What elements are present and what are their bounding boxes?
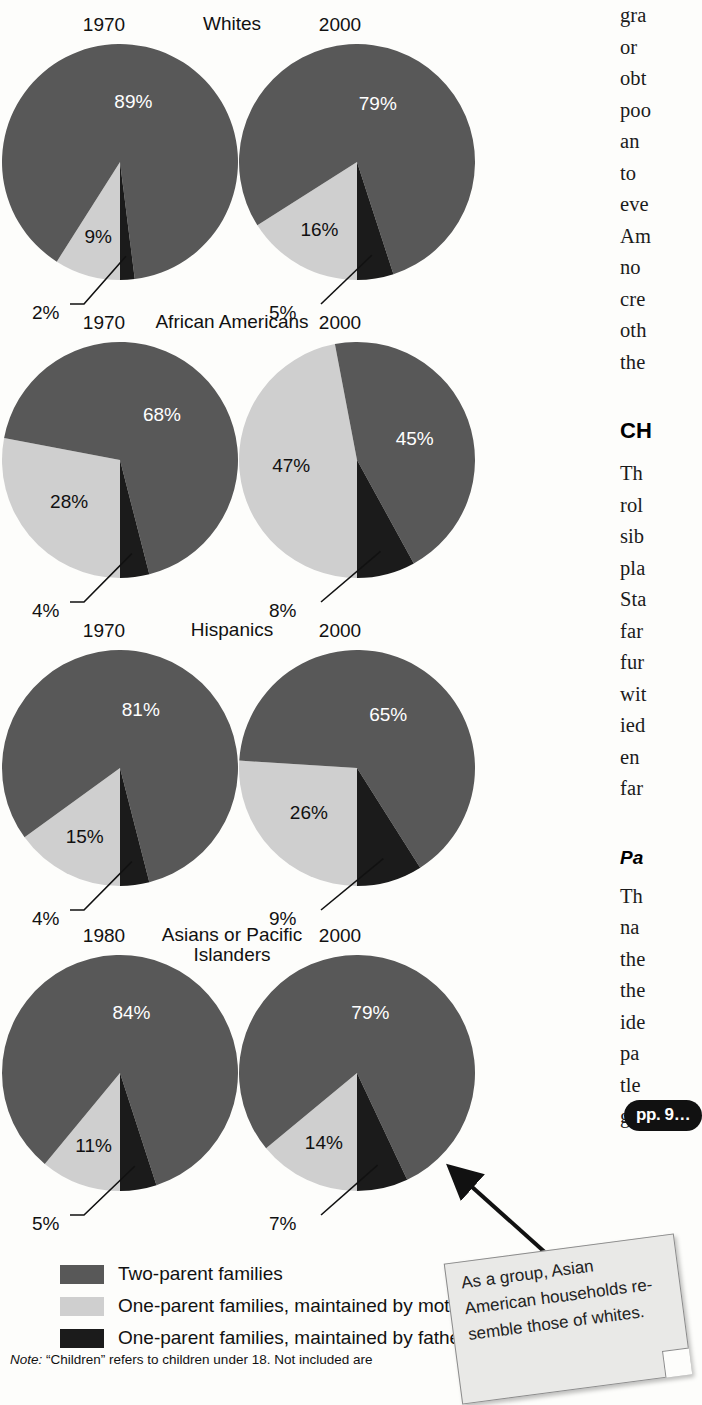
year-label-left: 1980 [83, 925, 125, 947]
book-subheading: Pa [620, 847, 643, 869]
pie-row: 19702000Whites89%9%2%79%16%5% [0, 14, 500, 340]
callout-text: As a group, Asian American households re… [460, 1244, 673, 1348]
book-text-line: Am [620, 225, 651, 248]
mother-percent-label: 26% [290, 802, 328, 824]
legend-label: One-parent families, maintained by fathe… [118, 1327, 467, 1349]
book-text-line: far [620, 620, 643, 643]
mother-percent-label: 16% [300, 219, 338, 241]
note-prefix: Note: [10, 1352, 42, 1367]
book-text-line: the [620, 948, 645, 971]
book-text-line: na [620, 916, 640, 939]
book-text-line: pa [620, 1042, 640, 1065]
pie-chart-right: 79%16% [239, 44, 475, 280]
pie-slices [239, 650, 475, 886]
year-label-left: 1970 [83, 14, 125, 36]
mother-percent-label: 11% [75, 1135, 112, 1157]
pie-chart-left: 81%15% [2, 650, 238, 886]
two-parent-percent-label: 79% [351, 1002, 389, 1024]
pie-slices [2, 342, 238, 578]
pie-chart-right: 65%26% [239, 650, 475, 886]
pie-row: 19802000Asians or PacificIslanders84%11%… [0, 925, 500, 1251]
book-text-line: ied [620, 714, 645, 737]
legend-swatch [60, 1265, 104, 1284]
callout-fold-corner [662, 1347, 692, 1377]
father-percent-label: 7% [269, 1213, 296, 1235]
mother-percent-label: 47% [272, 455, 310, 477]
book-text-line: the [620, 979, 645, 1002]
book-text-line: pla [620, 557, 645, 580]
pie-chart-left: 68%28% [2, 342, 238, 578]
mother-percent-label: 15% [66, 826, 104, 848]
legend-label: One-parent families, maintained by mothe… [118, 1295, 477, 1317]
book-text-line: Th [620, 462, 643, 485]
pie-chart-left: 89%9% [2, 44, 238, 280]
page-reference-badge[interactable]: pp. 9… [624, 1100, 702, 1131]
pie-chart-left: 84%11% [2, 955, 238, 1191]
book-text-line: tle [620, 1074, 641, 1097]
book-text-line: ide [620, 1011, 645, 1034]
group-title-line1: Hispanics [127, 620, 337, 640]
group-title-line1: African Americans [127, 312, 337, 332]
book-text-line: rol [620, 494, 643, 517]
book-text-line: poo [620, 99, 651, 122]
sticky-note-callout: As a group, Asian American households re… [444, 1233, 693, 1404]
legend-label: Two-parent families [118, 1263, 283, 1285]
two-parent-percent-label: 79% [359, 93, 397, 115]
book-text-line: eve [620, 193, 649, 216]
two-parent-percent-label: 89% [114, 91, 152, 113]
book-text-line: no [620, 256, 641, 279]
book-text-column: graor obtpooan to eveAmnocreoththeCHThro… [612, 0, 702, 1388]
father-percent-label: 8% [269, 600, 296, 622]
group-title-line1: Whites [127, 14, 337, 34]
book-text-line: Sta [620, 588, 647, 611]
book-text-line: fur [620, 651, 644, 674]
legend-swatch [60, 1297, 104, 1316]
pie-row: 19702000Hispanics81%15%4%65%26%9% [0, 620, 500, 946]
legend-item: Two-parent families [60, 1258, 490, 1290]
year-label-left: 1970 [83, 312, 125, 334]
legend-swatch [60, 1329, 104, 1348]
note-text: “Children” refers to children under 18. … [46, 1352, 372, 1367]
book-text-line: obt [620, 67, 647, 90]
book-text-line: cre [620, 288, 645, 311]
book-text-line: wit [620, 683, 647, 706]
book-text-line: en [620, 746, 640, 769]
book-text-line: gra [620, 4, 646, 27]
group-title-line1: Asians or Pacific [127, 925, 337, 945]
two-parent-percent-label: 68% [143, 404, 181, 426]
book-text-line: an [620, 130, 640, 153]
book-text-line: oth [620, 319, 647, 342]
pie-slices [239, 44, 475, 280]
two-parent-percent-label: 65% [369, 704, 407, 726]
book-text-line: the [620, 351, 645, 374]
callout-arrow-icon [430, 1155, 560, 1265]
book-text-line: Th [620, 885, 643, 908]
pie-slices [2, 650, 238, 886]
father-percent-label: 4% [32, 600, 59, 622]
group-title: Hispanics [127, 620, 337, 640]
mother-percent-label: 9% [85, 226, 112, 248]
two-parent-percent-label: 45% [396, 428, 434, 450]
book-text-line: far [620, 777, 643, 800]
mother-percent-label: 28% [50, 491, 88, 513]
pie-row: 19702000African Americans68%28%4%45%47%8… [0, 312, 500, 638]
two-parent-percent-label: 81% [122, 699, 160, 721]
mother-percent-label: 14% [305, 1132, 343, 1154]
legend-item: One-parent families, maintained by mothe… [60, 1290, 490, 1322]
chart-legend: Two-parent familiesOne-parent families, … [60, 1258, 490, 1354]
book-text-line: sib [620, 525, 644, 548]
legend-item: One-parent families, maintained by fathe… [60, 1322, 490, 1354]
father-percent-label: 5% [32, 1213, 59, 1235]
book-text-line: to [620, 162, 636, 185]
book-heading: CH [620, 418, 652, 444]
book-text-line: or [620, 36, 637, 59]
two-parent-percent-label: 84% [112, 1002, 150, 1024]
pie-slices [2, 955, 238, 1191]
pie-slices [2, 44, 238, 280]
pie-chart-figure: 19702000Whites89%9%2%79%16%5%19702000Afr… [0, 0, 500, 1388]
pie-chart-right: 45%47% [239, 342, 475, 578]
year-label-left: 1970 [83, 620, 125, 642]
group-title: Whites [127, 14, 337, 34]
chart-note: Note: “Children” refers to children unde… [10, 1352, 480, 1367]
